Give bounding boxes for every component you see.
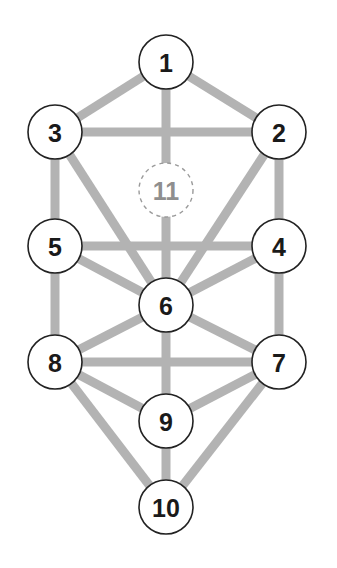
node-1: 1: [139, 35, 193, 89]
node-label: 1: [159, 49, 173, 77]
node-label: 5: [48, 233, 62, 261]
node-label: 11: [153, 177, 180, 205]
node-label: 4: [272, 233, 286, 261]
node-4: 4: [252, 219, 306, 273]
node-8: 8: [28, 335, 82, 389]
node-label: 7: [272, 349, 286, 377]
node-2: 2: [252, 105, 306, 159]
node-label: 9: [159, 408, 173, 436]
node-7: 7: [252, 335, 306, 389]
node-label: 6: [159, 292, 173, 320]
tree-of-life-diagram: 1231145678910: [0, 0, 337, 568]
node-label: 2: [272, 119, 286, 147]
node-label: 3: [48, 119, 62, 147]
node-label: 8: [48, 349, 62, 377]
node-5: 5: [28, 219, 82, 273]
node-label: 10: [152, 494, 180, 522]
node-9: 9: [139, 394, 193, 448]
node-11: 11: [139, 163, 193, 217]
node-10: 10: [139, 480, 193, 534]
node-6: 6: [139, 278, 193, 332]
node-3: 3: [28, 105, 82, 159]
